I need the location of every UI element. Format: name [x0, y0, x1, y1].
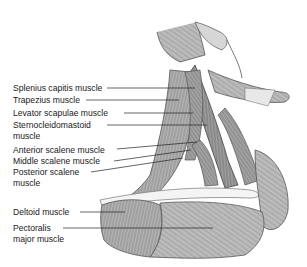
label-trapezius: Trapezius muscle — [13, 95, 80, 105]
label-posterior-scalene: Posterior scalene — [13, 167, 79, 177]
label-pectoralis-major-line2: major muscle — [13, 234, 64, 244]
label-middle-scalene: Middle scalene muscle — [13, 156, 100, 166]
label-sternocleidomastoid-line2: muscle — [13, 131, 40, 141]
label-deltoid: Deltoid muscle — [13, 207, 69, 217]
anatomy-diagram: Splenius capitis muscle Trapezius muscle… — [0, 0, 307, 267]
label-levator-scapulae: Levator scapulae muscle — [13, 108, 108, 118]
label-pectoralis-major: Pectoralis — [13, 223, 51, 233]
label-posterior-scalene-line2: muscle — [13, 178, 40, 188]
label-splenius-capitis: Splenius capitis muscle — [13, 83, 102, 93]
label-anterior-scalene: Anterior scalene muscle — [13, 145, 105, 155]
label-sternocleidomastoid: Sternocleidomastoid — [13, 120, 91, 130]
